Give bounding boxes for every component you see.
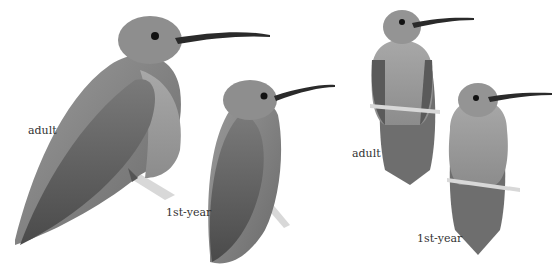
bill bbox=[274, 85, 335, 101]
hummingbird-plate: adult 1st-year adult 1st-year bbox=[0, 0, 555, 276]
label-front-1st-year: 1st-year bbox=[417, 232, 462, 245]
bird-front-1st-year bbox=[447, 83, 552, 255]
label-front-adult: adult bbox=[352, 147, 381, 160]
illustration bbox=[0, 0, 555, 276]
label-side-adult: adult bbox=[28, 124, 57, 137]
bill bbox=[175, 32, 270, 44]
label-side-1st-year: 1st-year bbox=[166, 206, 211, 219]
bill bbox=[412, 18, 474, 28]
bird-side-1st-year bbox=[208, 80, 335, 263]
